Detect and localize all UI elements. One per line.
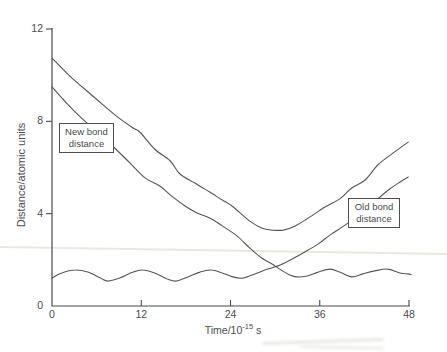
old-bond-label-text-line: distance	[356, 213, 391, 225]
scanned-trajectory-figure: 01224364804812 Time/10-15 s Distance/ato…	[0, 0, 447, 352]
x-tick-label-36: 36	[314, 308, 326, 320]
x-tick-label-12: 12	[135, 308, 147, 320]
new-bond-label: New bonddistance	[59, 123, 114, 153]
y-tick-label-4: 4	[37, 207, 43, 219]
x-tick-label-48: 48	[403, 308, 415, 320]
axes	[52, 28, 410, 306]
y-tick-label-0: 0	[37, 299, 43, 311]
old-bond-label-text-line: Old bond	[355, 201, 394, 213]
y-tick-label-8: 8	[37, 114, 43, 126]
x-axis-label-exponent: -15	[242, 322, 253, 331]
scan-artifact-line	[0, 247, 447, 254]
x-axis-label-prefix: Time/10	[205, 324, 243, 336]
y-tick-label-12: 12	[31, 22, 43, 34]
x-axis-label-suffix: s	[253, 324, 261, 336]
new-bond-label-text-line: New bond	[65, 126, 108, 138]
y-axis-label: Distance/atomic units	[15, 90, 27, 260]
new-bond-label-text-line: distance	[69, 138, 104, 150]
x-tick-label-0: 0	[49, 308, 55, 320]
x-axis-label: Time/10-15 s	[150, 322, 316, 336]
trajectory-chart: 01224364804812	[0, 0, 447, 352]
x-tick-label-24: 24	[225, 308, 237, 320]
curve-old-bond-distance	[52, 177, 408, 281]
old-bond-label: Old bonddistance	[348, 198, 400, 228]
